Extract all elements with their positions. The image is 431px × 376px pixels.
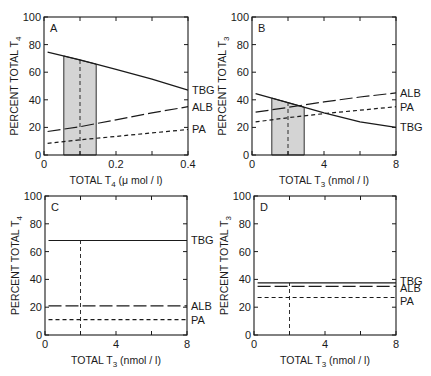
x-tick-label: 8 xyxy=(184,338,190,350)
series-label-alb: ALB xyxy=(400,282,421,294)
y-tick-label: 40 xyxy=(30,273,42,285)
y-tick-label: 80 xyxy=(30,218,42,230)
y-tick-label: 100 xyxy=(23,11,41,23)
series-label-pa: PA xyxy=(400,295,415,307)
x-tick-label: 0 xyxy=(42,338,48,350)
y-axis-label: PERCENT TOTAL T3 xyxy=(216,36,231,135)
y-tick-label: 80 xyxy=(239,218,251,230)
y-tick-label: 100 xyxy=(233,190,251,202)
x-axis-label: TOTAL T3 (nmol / l) xyxy=(280,354,370,369)
y-tick-label: 80 xyxy=(29,39,41,51)
x-tick-label: 0 xyxy=(249,158,255,170)
panel-c: 020406080100048TBGALBPACTOTAL T3 (nmol /… xyxy=(9,190,214,369)
y-tick-label: 20 xyxy=(29,121,41,133)
y-axis-label: PERCENT TOTAL T3 xyxy=(218,216,233,315)
y-tick-label: 100 xyxy=(24,190,42,202)
series-label-tbg: TBG xyxy=(191,234,214,246)
plot-frame xyxy=(254,196,396,335)
panel-b: 020406080100048ALBPATBGBTOTAL T3 (nmol /… xyxy=(216,11,423,189)
x-axis-label: TOTAL T3 (nmol / l) xyxy=(71,354,161,369)
x-axis-label: TOTAL T4 (μ mol / l) xyxy=(70,174,163,189)
series-label-pa: PA xyxy=(191,314,206,326)
panel-a: 02040608010000.20.4TBGALBPAATOTAL T4 (μ … xyxy=(8,11,215,189)
y-tick-label: 40 xyxy=(239,273,251,285)
y-tick-label: 80 xyxy=(237,39,249,51)
plot-frame xyxy=(45,196,187,335)
series-label-pa: PA xyxy=(192,123,207,135)
x-tick-label: 4 xyxy=(113,338,119,350)
y-tick-label: 20 xyxy=(237,121,249,133)
x-tick-label: 0 xyxy=(41,158,47,170)
x-tick-label: 4 xyxy=(322,338,328,350)
panel-letter: A xyxy=(50,22,58,34)
x-tick-label: 0 xyxy=(251,338,257,350)
y-tick-label: 60 xyxy=(239,246,251,258)
y-tick-label: 20 xyxy=(239,301,251,313)
y-axis-label: PERCENT TOTAL T4 xyxy=(8,36,23,135)
y-tick-label: 100 xyxy=(231,11,249,23)
series-label-alb: ALB xyxy=(192,101,213,113)
x-tick-label: 4 xyxy=(321,158,327,170)
y-tick-label: 40 xyxy=(237,94,249,106)
panel-letter: C xyxy=(51,201,59,213)
x-tick-label: 0.4 xyxy=(180,158,195,170)
figure: 02040608010000.20.4TBGALBPAATOTAL T4 (μ … xyxy=(0,0,431,376)
series-label-tbg: TBG xyxy=(192,84,215,96)
x-tick-label: 0.2 xyxy=(108,158,123,170)
panel-letter: B xyxy=(258,22,265,34)
y-tick-label: 60 xyxy=(237,66,249,78)
y-axis-label: PERCENT TOTAL T4 xyxy=(9,216,24,315)
panel-d: 020406080100048TBGALBPADTOTAL T3 (nmol /… xyxy=(218,190,423,369)
series-label-pa: PA xyxy=(400,101,415,113)
x-tick-label: 8 xyxy=(393,158,399,170)
x-tick-label: 8 xyxy=(393,338,399,350)
y-tick-label: 40 xyxy=(29,94,41,106)
y-tick-label: 20 xyxy=(30,301,42,313)
y-tick-label: 60 xyxy=(30,246,42,258)
x-axis-label: TOTAL T3 (nmol / l) xyxy=(279,174,369,189)
series-label-alb: ALB xyxy=(191,300,212,312)
y-tick-label: 60 xyxy=(29,66,41,78)
panel-letter: D xyxy=(260,201,268,213)
series-label-tbg: TBG xyxy=(400,121,423,133)
series-label-alb: ALB xyxy=(400,87,421,99)
